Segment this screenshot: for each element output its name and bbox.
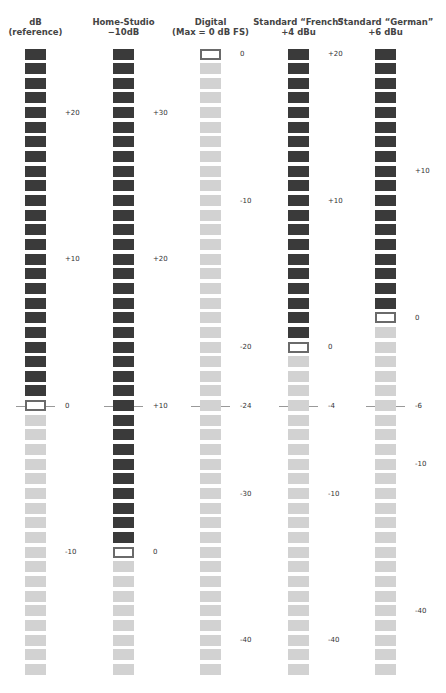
meter-segment bbox=[375, 503, 396, 514]
meter-segment bbox=[200, 576, 221, 587]
meter-segment bbox=[25, 327, 46, 338]
meter-segment bbox=[25, 122, 46, 133]
meter-segment bbox=[288, 429, 309, 440]
meter-segment bbox=[375, 254, 396, 265]
scale-label: +10 bbox=[153, 402, 168, 410]
reference-segment bbox=[200, 49, 221, 60]
meter-segment bbox=[375, 195, 396, 206]
meter-segment bbox=[375, 151, 396, 162]
meter-segment bbox=[200, 239, 221, 250]
meter-segment bbox=[288, 459, 309, 470]
meter-segment bbox=[25, 591, 46, 602]
scale-label: -10 bbox=[65, 548, 76, 556]
scale-label: 0 bbox=[240, 50, 244, 58]
meter-segment bbox=[113, 342, 134, 353]
reference-segment bbox=[113, 547, 134, 558]
meter-segment bbox=[113, 107, 134, 118]
meter-segment bbox=[200, 210, 221, 221]
scale-label: +10 bbox=[415, 167, 430, 175]
scale-label: 0 bbox=[153, 548, 157, 556]
meter-segment bbox=[200, 151, 221, 162]
meter-segment bbox=[113, 664, 134, 675]
meter-segment bbox=[375, 356, 396, 367]
meter-segment bbox=[288, 605, 309, 616]
meter-segment bbox=[200, 195, 221, 206]
meter-segment bbox=[200, 547, 221, 558]
meter-segment bbox=[288, 180, 309, 191]
meter-segment bbox=[288, 283, 309, 294]
meter-segment bbox=[113, 239, 134, 250]
meter-segment bbox=[25, 342, 46, 353]
meter-segment bbox=[25, 298, 46, 309]
meter-segment bbox=[200, 459, 221, 470]
meter-segment bbox=[375, 532, 396, 543]
meter-segment bbox=[375, 488, 396, 499]
meter-segment bbox=[113, 429, 134, 440]
meter-segment bbox=[113, 385, 134, 396]
meter-segment bbox=[375, 298, 396, 309]
meter-segment bbox=[200, 635, 221, 646]
meter-segment bbox=[113, 78, 134, 89]
meter-segment bbox=[288, 649, 309, 660]
meter-segment bbox=[375, 224, 396, 235]
meter-segment bbox=[25, 664, 46, 675]
meter-segment bbox=[375, 210, 396, 221]
meter-segment bbox=[375, 649, 396, 660]
meter-segment bbox=[25, 63, 46, 74]
meter-segment bbox=[25, 254, 46, 265]
meter-segment bbox=[25, 210, 46, 221]
meter-title-line: Standard “German” bbox=[326, 17, 446, 27]
meter-segment bbox=[113, 459, 134, 470]
meter-segment bbox=[200, 312, 221, 323]
meter-segment bbox=[200, 649, 221, 660]
meter-segment bbox=[25, 268, 46, 279]
meter-segment bbox=[375, 268, 396, 279]
scale-label: +10 bbox=[328, 197, 343, 205]
meter-segment bbox=[375, 473, 396, 484]
meter-segment bbox=[375, 400, 396, 411]
meter-segment bbox=[288, 49, 309, 60]
meter-segment bbox=[288, 473, 309, 484]
scale-label: +20 bbox=[65, 109, 80, 117]
meter-segment bbox=[288, 561, 309, 572]
meter-segment bbox=[288, 664, 309, 675]
meter-segment bbox=[200, 400, 221, 411]
meter-segment bbox=[288, 92, 309, 103]
meter-segment bbox=[288, 151, 309, 162]
meter-segment bbox=[375, 342, 396, 353]
meter-segment bbox=[200, 444, 221, 455]
meter-segment bbox=[200, 532, 221, 543]
meter-segment bbox=[25, 415, 46, 426]
meter-segment bbox=[113, 254, 134, 265]
meter-segment bbox=[288, 239, 309, 250]
meter-segment bbox=[200, 517, 221, 528]
meter-segment bbox=[288, 444, 309, 455]
scale-label: +20 bbox=[153, 255, 168, 263]
meter-segment bbox=[113, 151, 134, 162]
meter-segment bbox=[288, 415, 309, 426]
scale-label: 0 bbox=[415, 314, 419, 322]
reference-segment bbox=[288, 342, 309, 353]
meter-segment bbox=[25, 283, 46, 294]
meter-segment bbox=[375, 591, 396, 602]
meter-segment bbox=[375, 327, 396, 338]
meter-segment bbox=[113, 122, 134, 133]
meter-segment bbox=[113, 649, 134, 660]
meter-segment bbox=[288, 356, 309, 367]
meter-segment bbox=[375, 166, 396, 177]
scale-label: -4 bbox=[328, 402, 335, 410]
meter-segment bbox=[25, 649, 46, 660]
meter-segment bbox=[25, 180, 46, 191]
meter-segment bbox=[113, 488, 134, 499]
meter-segment bbox=[288, 107, 309, 118]
meter-segment bbox=[200, 473, 221, 484]
scale-label: +20 bbox=[328, 50, 343, 58]
meter-segment bbox=[288, 635, 309, 646]
meter-segment bbox=[375, 444, 396, 455]
meter-segment bbox=[200, 356, 221, 367]
meter-segment bbox=[25, 136, 46, 147]
meter-segment bbox=[375, 371, 396, 382]
meter-segment bbox=[375, 620, 396, 631]
meter-segment bbox=[25, 459, 46, 470]
scale-label: -30 bbox=[240, 490, 251, 498]
